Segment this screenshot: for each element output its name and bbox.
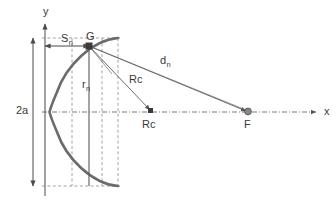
slant-distance-label: dn [160,55,170,66]
sagitta-label: Sn [61,33,73,44]
point-marker-g [86,43,93,50]
sagitta-label-subscript: n [69,38,73,47]
focus-label: F [244,119,251,130]
figure-canvas [0,0,336,209]
point-marker-focus [245,108,252,115]
slant-distance-label-subscript: n [166,60,170,69]
y-axis-label: y [43,6,49,17]
curvature-construction-line [89,46,112,74]
x-axis-label: x [324,106,330,117]
parabola-geometry-figure: y x 2a Sn G rn dn Rc Rc F [0,0,336,209]
curvature-lower-label: Rc [142,119,155,130]
curvature-upper-label: Rc [129,74,142,85]
aperture-label: 2a [16,105,28,116]
radius-label: rn [82,79,90,90]
point-marker-curvature-center [148,108,153,113]
point-g-label: G [86,31,95,42]
radius-label-subscript: n [86,84,90,93]
sagitta-label-base: S [61,32,68,44]
